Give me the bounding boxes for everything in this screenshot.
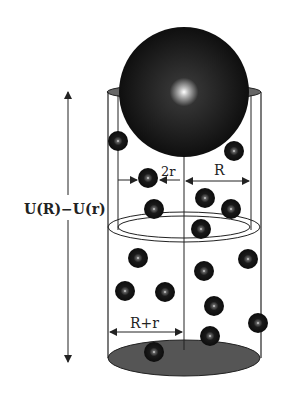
large-sphere [119,27,249,157]
diagram-canvas: U(R)−U(r) 2r R R+r [0,0,284,402]
label-R: R [214,162,225,178]
label-potential: U(R)−U(r) [24,201,106,217]
label-2r: 2r [161,164,176,179]
label-R-plus-r: R+r [130,315,159,331]
